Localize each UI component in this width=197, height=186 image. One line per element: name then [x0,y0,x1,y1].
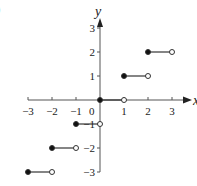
y-axis-label: y [93,4,102,19]
y-tick-label: −2 [83,142,95,154]
origin-label: 0 [89,105,95,117]
open-endpoint [98,122,103,127]
y-tick-label: −3 [83,166,95,178]
open-endpoint [170,50,175,55]
y-axis-arrow-icon [97,18,103,27]
closed-endpoint [122,74,127,79]
open-endpoint [50,170,55,175]
x-axis-arrow-icon [183,97,192,104]
closed-endpoint [74,122,79,127]
x-tick-label: −3 [22,105,34,117]
x-tick-label: 1 [121,105,127,117]
closed-endpoint [26,170,31,175]
x-tick-label: 3 [169,105,175,117]
closed-endpoint [146,50,151,55]
step-function-chart: ) −3−2−1123−3−2−1123 x y 0 [0,0,197,186]
open-endpoint [74,146,79,151]
x-axis-label: x [192,93,197,108]
closed-endpoint [50,146,55,151]
y-tick-label: 3 [90,22,96,34]
closed-endpoint [98,98,103,103]
y-tick-label: 2 [90,46,96,58]
open-endpoint [122,98,127,103]
x-tick-label: 2 [145,105,151,117]
y-tick-label: 1 [90,70,96,82]
open-endpoint [146,74,151,79]
x-tick-label: −1 [70,105,82,117]
x-tick-label: −2 [46,105,58,117]
